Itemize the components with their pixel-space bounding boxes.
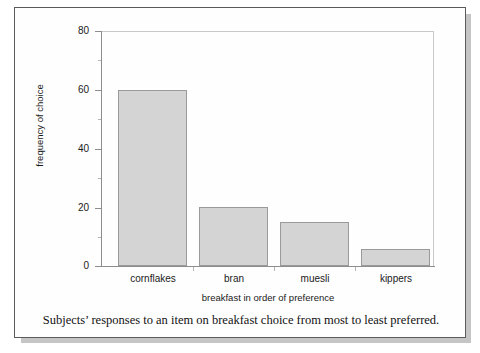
y-tick-label-0-wrap: 0 bbox=[43, 261, 89, 271]
y-minor-tick-70 bbox=[98, 60, 101, 61]
x-label-cornflakes: cornflakes bbox=[108, 273, 198, 284]
x-axis-line bbox=[101, 266, 435, 267]
y-tick-label-80-wrap: 80 bbox=[43, 26, 89, 36]
x-label-bran: bran bbox=[189, 273, 279, 284]
y-tick-60 bbox=[95, 90, 101, 91]
y-tick-20 bbox=[95, 208, 101, 209]
bar-chart: 80 60 40 20 0 frequency of choice bbox=[15, 8, 467, 339]
x-tick-1 bbox=[193, 267, 194, 271]
y-tick-label-0: 0 bbox=[43, 261, 89, 271]
bar-kippers bbox=[361, 249, 430, 266]
x-tick-2 bbox=[274, 267, 275, 271]
y-minor-tick-30 bbox=[98, 178, 101, 179]
y-minor-tick-10 bbox=[98, 237, 101, 238]
bar-cornflakes bbox=[118, 90, 187, 266]
x-label-muesli: muesli bbox=[270, 273, 360, 284]
y-minor-tick-50 bbox=[98, 119, 101, 120]
y-axis-line bbox=[101, 31, 102, 267]
y-tick-label-40: 40 bbox=[43, 144, 89, 154]
x-label-kippers: kippers bbox=[351, 273, 441, 284]
y-tick-label-80: 80 bbox=[43, 26, 89, 36]
y-tick-label-60: 60 bbox=[43, 85, 89, 95]
y-tick-0 bbox=[95, 266, 101, 267]
y-tick-label-20-wrap: 20 bbox=[43, 203, 89, 213]
bar-muesli bbox=[280, 222, 349, 266]
y-axis-title: frequency of choice bbox=[34, 66, 45, 186]
figure-caption: Subjects’ responses to an item on breakf… bbox=[31, 313, 451, 328]
y-tick-40 bbox=[95, 149, 101, 150]
x-tick-3 bbox=[355, 267, 356, 271]
y-tick-label-60-wrap: 60 bbox=[43, 85, 89, 95]
y-tick-label-40-wrap: 40 bbox=[43, 144, 89, 154]
x-axis-title: breakfast in order of preference bbox=[101, 292, 435, 303]
y-tick-80 bbox=[95, 31, 101, 32]
y-tick-label-20: 20 bbox=[43, 203, 89, 213]
bar-bran bbox=[199, 207, 268, 266]
figure-frame: 80 60 40 20 0 frequency of choice bbox=[14, 7, 466, 338]
